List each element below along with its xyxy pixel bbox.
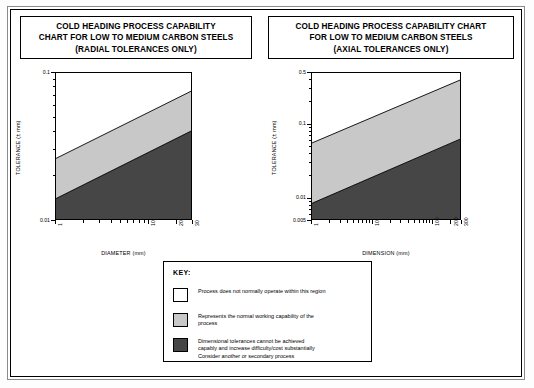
x-tick-label: 10	[374, 220, 380, 226]
key-text-white-line1: Process does not normally operate within…	[198, 288, 325, 295]
x-tick-mark	[432, 220, 433, 224]
x-tick-label: 1	[57, 223, 63, 226]
x-tick-mark	[429, 220, 430, 223]
y-tick-mark	[51, 72, 55, 73]
plot-bands-radial	[56, 73, 191, 219]
x-tick-mark	[127, 220, 128, 223]
y-tick-mark	[309, 175, 312, 176]
y-tick-mark	[309, 153, 312, 154]
y-tick-mark	[53, 117, 56, 118]
y-tick-mark	[309, 205, 312, 206]
y-tick-label: 0.01	[275, 194, 306, 200]
y-tick-mark	[309, 214, 312, 215]
x-tick-mark	[369, 220, 370, 223]
chart-title-radial: COLD HEADING PROCESS CAPABILITY CHART FO…	[20, 16, 252, 59]
x-tick-mark	[461, 220, 462, 224]
x-axis-label-axial: DIMENSION (mm)	[311, 250, 461, 256]
x-tick-mark	[347, 220, 348, 223]
key-title: KEY:	[173, 269, 191, 276]
y-tick-mark	[53, 149, 56, 150]
y-tick-mark	[307, 198, 311, 199]
key-text-dark-line3: Consider another or secondary process	[198, 353, 315, 360]
x-tick-mark	[329, 220, 330, 223]
plot-area-radial	[55, 72, 192, 220]
x-tick-mark	[192, 220, 193, 224]
x-tick-mark	[176, 220, 177, 224]
x-tick-label: 10	[150, 220, 156, 226]
x-tick-mark	[144, 220, 145, 223]
x-tick-mark	[358, 220, 359, 223]
x-tick-mark	[423, 220, 424, 223]
y-tick-mark	[309, 146, 312, 147]
key-text-dark-line2: capably and increase difficulty/cost sub…	[198, 345, 315, 352]
x-tick-mark	[55, 220, 56, 224]
x-axis-label-radial: DIAMETER (mm)	[55, 250, 192, 256]
key-text-light: Represents the normal working capability…	[198, 313, 314, 328]
key-swatch-white	[173, 288, 188, 302]
y-tick-mark	[309, 127, 312, 128]
key-text-light-line2: process	[198, 320, 314, 327]
chart-title-radial-line2: CHART FOR LOW TO MEDIUM CARBON STEELS	[21, 32, 251, 43]
x-tick-label: 100	[434, 217, 440, 226]
y-axis-label-axial: TOLERANCE (± mm)	[271, 120, 277, 175]
x-tick-mark	[148, 220, 149, 224]
x-tick-label: 20	[178, 220, 184, 226]
x-tick-mark	[111, 220, 112, 223]
key-text-light-line1: Represents the normal working capability…	[198, 313, 314, 320]
y-tick-mark	[309, 131, 312, 132]
key-swatch-light-gray	[173, 313, 188, 327]
key-text-white: Process does not normally operate within…	[198, 288, 325, 295]
key-swatch-dark-gray	[173, 338, 188, 352]
x-tick-mark	[400, 220, 401, 223]
y-tick-mark	[53, 175, 56, 176]
y-tick-mark	[309, 101, 312, 102]
x-tick-mark	[408, 220, 409, 223]
x-tick-mark	[390, 220, 391, 223]
x-tick-label: 300	[463, 217, 469, 226]
y-tick-mark	[309, 209, 312, 210]
y-tick-mark	[309, 135, 312, 136]
x-tick-mark	[133, 220, 134, 223]
x-tick-mark	[414, 220, 415, 223]
chart-title-axial-line2: FOR LOW TO MEDIUM CARBON STEELS	[269, 32, 513, 43]
y-tick-mark	[53, 95, 56, 96]
y-tick-label: 0.01	[19, 217, 50, 223]
chart-title-axial-line1: COLD HEADING PROCESS CAPABILITY CHART	[269, 21, 513, 32]
x-tick-label: 30	[194, 220, 200, 226]
y-tick-mark	[53, 105, 56, 106]
x-tick-mark	[139, 220, 140, 223]
x-tick-mark	[419, 220, 420, 223]
y-tick-mark	[309, 79, 312, 80]
y-tick-label: 0.005	[275, 217, 306, 223]
key-text-dark: Dimensional tolerances cannot be achieve…	[198, 338, 315, 360]
x-tick-mark	[426, 220, 427, 223]
y-tick-mark	[53, 86, 56, 87]
y-tick-label: 0.1	[19, 69, 50, 75]
x-tick-mark	[311, 220, 312, 224]
x-tick-mark	[366, 220, 367, 223]
y-tick-mark	[53, 79, 56, 80]
x-tick-mark	[99, 220, 100, 223]
chart-title-axial-line3: (AXIAL TOLERANCES ONLY)	[269, 44, 513, 55]
x-tick-mark	[450, 220, 451, 224]
chart-title-axial: COLD HEADING PROCESS CAPABILITY CHART FO…	[268, 16, 514, 59]
y-tick-mark	[309, 162, 312, 163]
y-tick-mark	[309, 88, 312, 89]
y-tick-mark	[307, 72, 311, 73]
plot-area-axial	[311, 72, 461, 220]
y-tick-label: 0.1	[275, 120, 306, 126]
chart-page: COLD HEADING PROCESS CAPABILITY CHART FO…	[0, 0, 534, 388]
y-tick-mark	[53, 131, 56, 132]
x-tick-label: 1	[313, 223, 319, 226]
x-tick-mark	[340, 220, 341, 223]
key-text-dark-line1: Dimensional tolerances cannot be achieve…	[198, 338, 315, 345]
x-tick-mark	[353, 220, 354, 223]
y-axis-label-radial: TOLERANCE (± mm)	[15, 120, 21, 175]
x-tick-mark	[372, 220, 373, 224]
x-tick-mark	[120, 220, 121, 223]
y-tick-mark	[309, 140, 312, 141]
chart-title-radial-line3: (RADIAL TOLERANCES ONLY)	[21, 44, 251, 55]
chart-title-radial-line1: COLD HEADING PROCESS CAPABILITY	[21, 21, 251, 32]
y-tick-mark	[309, 201, 312, 202]
plot-bands-axial	[312, 73, 460, 219]
